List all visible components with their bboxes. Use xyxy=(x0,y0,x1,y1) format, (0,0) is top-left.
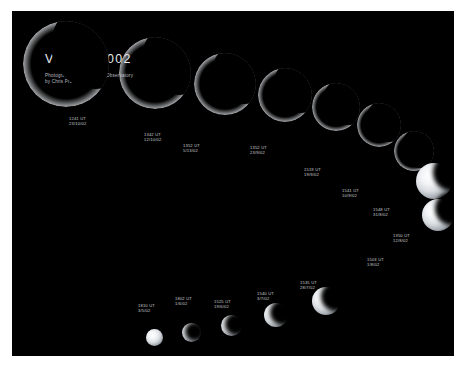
observation-date: 23/9/02 xyxy=(250,150,267,155)
observation-label: 1350 UT12/8/02 xyxy=(393,233,410,244)
terminator-shadow xyxy=(270,300,295,325)
venus-phase-poster: VENUS 2002 Photographed at the TBGS Obse… xyxy=(0,0,466,369)
venus-disk xyxy=(146,329,163,346)
night-sky-canvas: VENUS 2002 Photographed at the TBGS Obse… xyxy=(12,11,454,356)
observation-date: 5/13/02 xyxy=(183,148,200,153)
terminator-shadow xyxy=(185,322,205,342)
observation-date: 12/10/02 xyxy=(144,137,161,142)
observation-date: 19/9/02 xyxy=(304,172,321,177)
observation-date: 31/8/02 xyxy=(373,212,390,217)
venus-crescent xyxy=(194,53,256,115)
venus-disk xyxy=(264,303,288,327)
observation-date: 19/6/02 xyxy=(214,304,231,309)
observation-label: 1548 UT31/8/02 xyxy=(373,207,390,218)
observation-date: 3/5/02 xyxy=(138,308,155,313)
observation-label: 1802 UT1/6/02 xyxy=(175,296,192,307)
venus-disk xyxy=(422,199,454,231)
observation-date: 10/9/02 xyxy=(342,193,359,198)
terminator-shadow xyxy=(225,313,247,335)
observation-label: 1352 UT23/9/02 xyxy=(250,145,267,156)
observation-label: 1342 UT12/10/02 xyxy=(144,132,161,143)
observation-date: 12/8/02 xyxy=(393,238,410,243)
observation-label: 1503 UT1/8/02 xyxy=(367,257,384,268)
observation-date: 1/6/02 xyxy=(175,301,192,306)
terminator-shadow xyxy=(321,282,350,311)
observation-label: 1352 UT5/13/02 xyxy=(183,143,200,154)
terminator-shadow xyxy=(433,154,454,191)
venus-disk xyxy=(312,287,340,315)
observation-label: 1519 UT19/9/02 xyxy=(304,167,321,178)
observation-label: 1540 UT3/7/02 xyxy=(257,291,274,302)
venus-disk xyxy=(221,315,242,336)
observation-date: 1/8/02 xyxy=(367,262,384,267)
venus-crescent xyxy=(258,68,312,122)
venus-crescent xyxy=(357,103,401,147)
venus-crescent xyxy=(312,83,360,131)
observation-label: 1241 UT23/10/02 xyxy=(69,116,86,127)
observation-date: 28/7/02 xyxy=(300,285,317,290)
observation-date: 23/10/02 xyxy=(69,121,86,126)
venus-crescent xyxy=(119,37,191,109)
observation-label: 1535 UT28/7/02 xyxy=(300,280,317,291)
venus-disk xyxy=(182,323,201,342)
venus-crescent xyxy=(23,21,109,107)
observation-label: 1541 UT10/9/02 xyxy=(342,188,359,199)
observation-date: 3/7/02 xyxy=(257,296,274,301)
observation-label: 1810 UT3/5/02 xyxy=(138,303,155,314)
observation-label: 1525 UT19/6/02 xyxy=(214,299,231,310)
